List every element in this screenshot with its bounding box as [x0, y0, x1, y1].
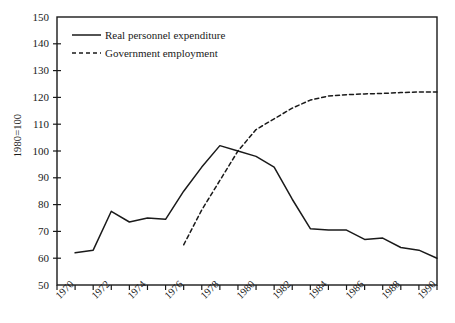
plot-area	[0, 0, 455, 323]
y-tick-label-100: 100	[19, 146, 49, 157]
legend-label-real-personnel-expenditure: Real personnel expenditure	[105, 30, 225, 41]
chart-figure: 1980=100 5060708090100110120130140150 19…	[0, 0, 455, 323]
y-tick-label-60: 60	[19, 253, 49, 264]
series-line-government-employment	[184, 92, 437, 245]
y-tick-label-130: 130	[19, 65, 49, 76]
axis-ticks	[53, 44, 437, 290]
y-tick-label-120: 120	[19, 92, 49, 103]
y-tick-label-70: 70	[19, 226, 49, 237]
legend-label-government-employment: Government employment	[105, 48, 218, 59]
y-tick-label-90: 90	[19, 172, 49, 183]
data-series	[75, 92, 437, 258]
series-line-real-personnel-expenditure	[75, 146, 437, 259]
y-tick-label-110: 110	[19, 119, 49, 130]
y-tick-label-50: 50	[19, 280, 49, 291]
y-tick-label-80: 80	[19, 199, 49, 210]
legend-sample-lines	[72, 35, 101, 53]
y-tick-label-140: 140	[19, 38, 49, 49]
y-tick-label-150: 150	[19, 12, 49, 23]
